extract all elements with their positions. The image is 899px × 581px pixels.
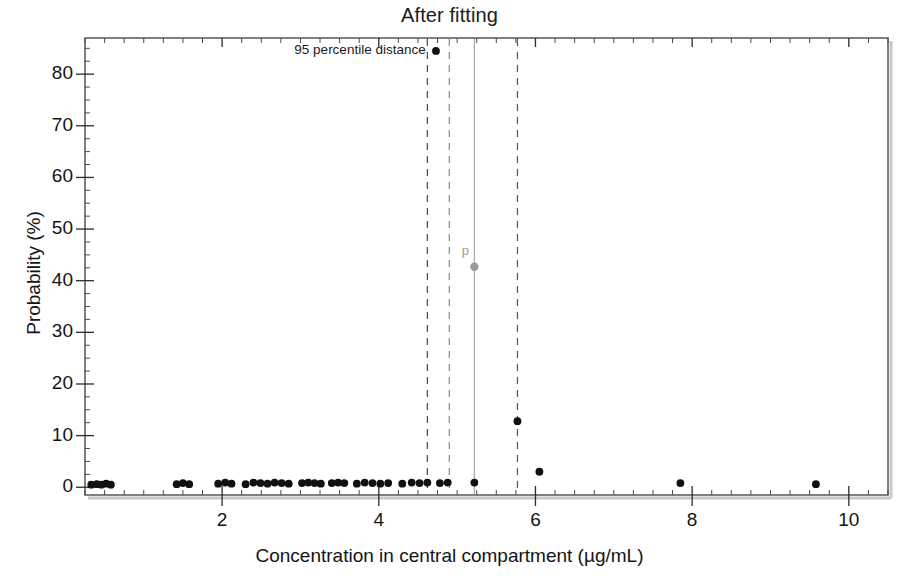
data-point [416,479,424,487]
x-tick-label: 4 [359,509,399,531]
x-tick-label: 6 [515,509,555,531]
data-point [812,480,820,488]
data-point [257,479,265,487]
x-tick-label: 8 [672,509,712,531]
x-tick-label: 10 [829,509,869,531]
data-point [470,263,478,271]
y-tick-label: 50 [27,217,73,239]
data-point [107,481,115,489]
data-point [384,479,392,487]
data-point [264,480,272,488]
percentile-label: 95 percentile distance [294,42,425,57]
data-point [423,479,431,487]
data-point [436,479,444,487]
p-label: p [462,243,469,258]
data-point [317,480,325,488]
chart-figure: After fitting Probability (%) Concentrat… [0,0,899,581]
x-tick-label: 2 [202,509,242,531]
data-point [250,479,258,487]
data-point [185,480,193,488]
data-point [242,480,250,488]
plot-frame [85,38,888,495]
data-point [228,480,236,488]
y-tick-label: 80 [27,62,73,84]
data-point [214,480,222,488]
plot-canvas [0,0,899,581]
y-tick-label: 40 [27,269,73,291]
data-point [444,479,452,487]
data-point [376,480,384,488]
y-tick-label: 0 [27,475,73,497]
data-point [676,479,684,487]
data-point [278,479,286,487]
data-point [353,480,361,488]
data-point [398,480,406,488]
data-point [369,479,377,487]
data-point [408,479,416,487]
data-point [271,479,279,487]
y-tick-label: 20 [27,372,73,394]
data-point [432,47,440,55]
data-point [514,417,522,425]
data-point [285,480,293,488]
data-point [470,479,478,487]
data-point [535,468,543,476]
y-tick-label: 10 [27,424,73,446]
chart-title: After fitting [0,4,899,27]
y-tick-label: 30 [27,320,73,342]
x-axis-label: Concentration in central compartment (µg… [0,545,899,567]
data-point [340,479,348,487]
y-tick-label: 60 [27,165,73,187]
y-tick-label: 70 [27,114,73,136]
data-point [361,479,369,487]
